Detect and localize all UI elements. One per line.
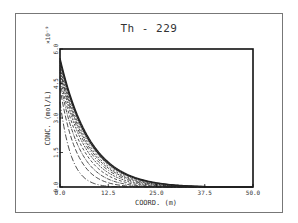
- concentration-curve: [60, 72, 253, 187]
- x-tick-label: 25.0: [149, 189, 164, 196]
- concentration-curve: [60, 61, 253, 188]
- concentration-curve: [60, 70, 253, 187]
- concentration-curve: [60, 67, 253, 187]
- y-axis-label: CONC. (mol/L): [44, 91, 52, 146]
- plot-area: 0.012.525.037.550.0 0.01.53.04.56.0 COOR…: [0, 0, 298, 223]
- concentration-curve: [60, 77, 253, 187]
- x-tick-label: 37.5: [198, 189, 213, 196]
- curve-group: [60, 58, 253, 187]
- x-axis-label: COORD. (m): [135, 199, 177, 207]
- y-tick-label: 1.5: [52, 147, 59, 158]
- y-multiplier: ×10⁻⁹: [44, 26, 51, 44]
- plot-frame: [60, 49, 253, 187]
- y-tick-label: 0.0: [52, 181, 59, 192]
- y-tick-label: 4.5: [52, 78, 59, 89]
- y-tick-label: 6.0: [52, 43, 59, 54]
- x-tick-label: 12.5: [101, 189, 116, 196]
- concentration-curve: [60, 81, 253, 187]
- y-tick-label: 3.0: [52, 112, 59, 123]
- concentration-curve: [60, 63, 253, 187]
- concentration-curve: [60, 58, 253, 187]
- x-tick-label: 50.0: [246, 189, 261, 196]
- concentration-curve: [60, 65, 253, 187]
